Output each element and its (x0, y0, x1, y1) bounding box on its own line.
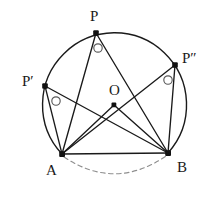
label-P-double-prime: P″ (182, 51, 197, 66)
chord-AB (62, 153, 168, 154)
point-marker-B (165, 150, 171, 156)
point-marker-O (112, 103, 117, 108)
angle-marker-P-double-prime-icon (164, 76, 172, 84)
label-P: P (90, 9, 98, 24)
label-A: A (46, 163, 57, 178)
angle-marker-P-icon (94, 44, 102, 52)
radius-OB (114, 105, 168, 153)
angle-marker-P-prime-icon (52, 97, 60, 105)
point-marker-A (59, 151, 65, 157)
point-marker-P (93, 30, 99, 36)
label-B: B (177, 160, 187, 175)
dashed-arc-AB (64, 156, 166, 174)
radius-OA (62, 105, 114, 154)
chord-PB (96, 33, 168, 153)
inscribed-angle-figure: P P′ P″ O A B (0, 0, 214, 198)
label-O: O (109, 83, 120, 98)
label-P-prime: P′ (22, 74, 34, 89)
point-marker-P-double-prime (172, 62, 178, 68)
point-marker-P-prime (42, 83, 48, 89)
